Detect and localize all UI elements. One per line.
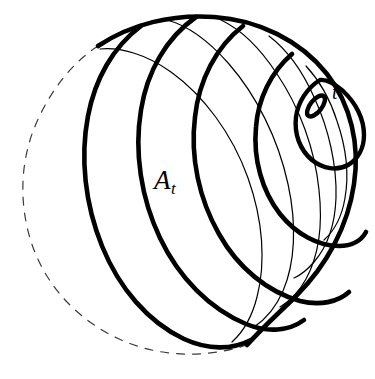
sphere-level-set-figure (0, 0, 375, 379)
sphere-visible-outline-arc (98, 16, 356, 345)
level-curve-thin-1 (100, 49, 262, 342)
degenerate-loop-at-t-icon (304, 93, 329, 120)
region-label-base: A (154, 165, 171, 195)
sphere-visible-outline-group (98, 16, 356, 345)
nested-level-curves-thin-group (100, 20, 347, 342)
point-label-t: t (332, 82, 338, 102)
region-label-A-t: At (154, 167, 176, 197)
level-curve-thick-4 (255, 54, 366, 246)
level-curve-thin-3 (221, 20, 320, 307)
figure-root: At t (0, 0, 375, 379)
region-label-subscript: t (171, 179, 176, 198)
